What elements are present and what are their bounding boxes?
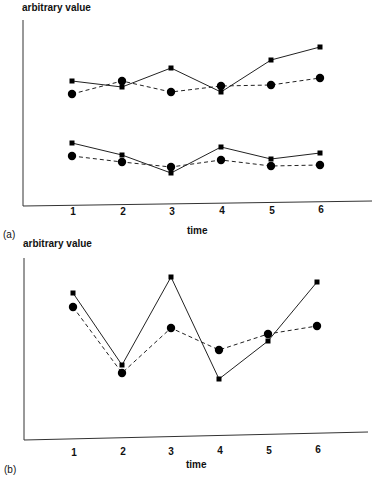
panel-b-y-axis-label: arbitrary value [23,238,92,249]
data-point-square [318,151,323,156]
panel-b-tick-2: 2 [120,446,126,457]
data-point-circle [217,82,225,90]
panel-b-tick-6: 6 [315,444,321,455]
panel-b-tick-3: 3 [168,446,174,457]
data-point-circle [316,74,324,82]
data-point-square [269,157,274,162]
data-point-square [217,377,222,382]
data-point-square [315,280,320,285]
panel-a-caption-label: (a) [3,229,15,240]
panel-a-x-axis-label: time [187,225,208,236]
data-point-circle [68,152,76,160]
data-point-square [70,141,75,146]
data-point-circle [167,324,175,332]
panel-a-tick-2: 2 [120,206,126,217]
panel-a-tick-5: 5 [269,205,275,216]
panel-b-circle-dashed-line [73,307,317,373]
data-point-circle [215,346,223,354]
data-point-circle [68,90,76,98]
panel-b-x-axis [24,432,368,440]
panel-a-tick-6: 6 [318,204,324,215]
data-point-circle [313,322,321,330]
data-point-square [219,145,224,150]
data-point-square [169,171,174,176]
panel-b-x-axis-label: time [186,459,207,470]
data-point-circle [267,81,275,89]
panel-a-tick-3: 3 [169,206,175,217]
data-point-square [219,90,224,95]
data-point-circle [316,161,324,169]
data-point-square [169,275,174,280]
series-layer [68,45,324,382]
panel-b-square-solid-line [73,277,317,379]
data-point-square [318,45,323,50]
data-point-circle [118,77,126,85]
panel-a-tick-4: 4 [219,205,225,216]
data-point-circle [167,163,175,171]
data-point-circle [118,158,126,166]
data-point-square [70,79,75,84]
data-point-square [120,85,125,90]
panel-a-y-axis-label: arbitrary value [22,2,91,13]
data-point-square [120,153,125,158]
panel-b-caption-label: (b) [4,464,16,475]
data-point-square [269,58,274,63]
panel-a-tick-1: 1 [70,206,76,217]
data-point-circle [69,303,77,311]
panel-b-tick-5: 5 [266,445,272,456]
data-point-circle [264,330,272,338]
data-point-circle [217,156,225,164]
data-point-square [169,66,174,71]
data-point-circle [167,88,175,96]
panel-b-tick-4: 4 [217,445,223,456]
data-point-square [266,339,271,344]
data-point-circle [267,162,275,170]
panel-a-lower-square-solid-line [72,143,320,173]
data-point-circle [118,369,126,377]
panel-a-upper-square-solid-line [72,47,320,92]
panel-b-tick-1: 1 [71,447,77,458]
data-point-square [120,363,125,368]
data-point-square [71,291,76,296]
